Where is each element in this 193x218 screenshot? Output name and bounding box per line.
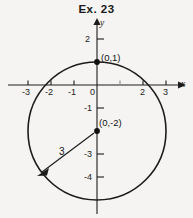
- y-tick-label-pos2: 2: [85, 35, 90, 44]
- y-axis-label: y: [100, 19, 104, 29]
- x-axis-label: x: [181, 80, 185, 90]
- point-marker-0-1: [94, 59, 100, 65]
- x-tick-label-neg2: -2: [45, 88, 53, 97]
- point-label-0-1: (0,1): [101, 53, 121, 63]
- y-tick-label-neg1: -1: [84, 104, 92, 113]
- radius-length-label: 3: [59, 147, 65, 157]
- x-tick-label-neg1: -1: [68, 88, 76, 97]
- point-label-0-neg2: (0,-2): [99, 118, 122, 128]
- x-tick-label-origin: 0: [90, 88, 95, 97]
- y-tick-label-neg4: -4: [84, 173, 92, 182]
- x-tick-label-pos3: 3: [163, 88, 168, 97]
- figure-container: Ex. 23 -3 -2 -1 0 2 3 2: [0, 0, 193, 218]
- x-tick-label-pos2: 2: [140, 88, 145, 97]
- coordinate-plot: [0, 0, 193, 218]
- point-marker-center-0-neg2: [94, 128, 100, 134]
- y-tick-label-neg3: -3: [84, 150, 92, 159]
- x-tick-label-neg3: -3: [22, 88, 30, 97]
